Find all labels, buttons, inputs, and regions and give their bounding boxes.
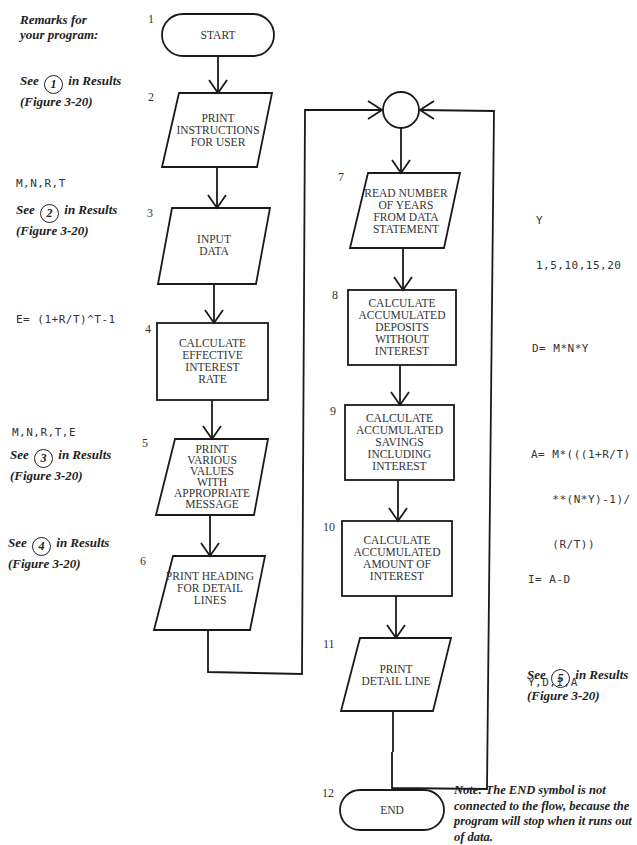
text-line: FOR USER [191,136,246,148]
text-line: FOR DETAIL [177,582,243,594]
text-line: ACCUMULATED [356,424,443,436]
step-number-5: 5 [142,436,148,451]
text-line: STATEMENT [373,223,439,235]
text-line: DATA [199,245,229,257]
text-line: INTEREST [375,345,429,357]
text-line: CALCULATE [366,412,433,424]
text-line: INTEREST [370,570,424,582]
text-line: CALCULATE [363,534,430,546]
circled-number: 3 [34,449,53,468]
step-11-text: PRINT DETAIL LINE [346,660,446,690]
circled-number: 2 [40,204,59,223]
text-line: INTEREST [185,361,239,373]
see-prefix: See [527,667,549,682]
text-line: DEPOSITS WITHOUT [348,321,456,345]
step-number-12: 12 [322,786,334,801]
see-prefix: See [16,202,38,217]
remarks-header: Remarks for your program: [20,12,98,42]
step-number-7: 7 [338,170,344,185]
see-line: See 3 in Results [10,447,111,468]
code-line: D= M*N*Y [532,341,589,356]
end-text: END [380,804,404,816]
code-line: Y [536,213,621,228]
text-line: DETAIL LINE [361,675,430,687]
left-remark-2: See 2 in Results (Figure 3-20) [16,202,117,238]
text-line: AMOUNT OF [363,558,431,570]
text-line: SAVINGS INCLUDING [345,436,454,460]
text-line: PRINT HEADING [166,570,254,582]
right-remark-5: See 5 in Results (Figure 3-20) [527,667,628,703]
text-line: RATE [198,373,227,385]
left-remark-2-code: M,N,R,T [16,176,66,191]
see-prefix: See [8,535,30,550]
text-line: CALCULATE [368,297,435,309]
circled-number: 5 [551,669,570,688]
step-number-8: 8 [332,288,338,303]
step-6-text: PRINT HEADING FOR DETAIL LINES [160,568,260,608]
right-remark-4-code: I= A-D [528,542,571,617]
see-line: See 1 in Results [20,73,121,94]
see-suffix: in Results [572,667,628,682]
step-10-text: CALCULATE ACCUMULATED AMOUNT OF INTEREST [342,529,452,587]
step-7-text: READ NUMBER OF YEARS FROM DATA STATEMENT [356,186,456,236]
step-3-text: INPUT DATA [164,230,264,260]
see-prefix: See [20,73,42,88]
step-8-text: CALCULATE ACCUMULATED DEPOSITS WITHOUT I… [348,298,456,356]
left-remark-5: See 4 in Results (Figure 3-20) [8,535,109,571]
left-remark-4-code: M,N,R,T,E [12,425,76,440]
figure-ref: (Figure 3-20) [527,688,628,703]
see-prefix: See [10,447,32,462]
see-line: See 2 in Results [16,202,117,223]
code-line: 1,5,10,15,20 [536,258,621,273]
remarks-header-line-1: Remarks for [20,12,98,27]
text-line: OF YEARS [379,199,434,211]
circled-number: 1 [44,75,63,94]
step-4-text: CALCULATE EFFECTIVE INTEREST RATE [157,330,268,392]
text-line: PRINT [201,112,234,124]
step-number-9: 9 [330,404,336,419]
code-line: **(N*Y)-1)/ [531,492,631,507]
see-suffix: in Results [61,202,117,217]
end-symbol-note: Note: The END symbol is not connected to… [454,783,637,845]
left-remark-4: See 3 in Results (Figure 3-20) [10,447,111,483]
see-line: See 5 in Results [527,667,628,688]
see-line: See 4 in Results [8,535,109,556]
start-text: START [201,29,236,41]
step-number-3: 3 [147,206,153,221]
remarks-header-line-2: your program: [20,27,98,42]
step-number-4: 4 [145,322,151,337]
text-line: EFFECTIVE [182,349,243,361]
text-line: INSTRUCTIONS [176,124,259,136]
text-line: READ NUMBER [364,187,447,199]
step-number-10: 10 [323,520,335,535]
step-number-1: 1 [148,12,154,27]
text-line: ACCUMULATED [359,309,446,321]
step-9-text: CALCULATE ACCUMULATED SAVINGS INCLUDING … [345,413,454,471]
see-suffix: in Results [53,535,109,550]
see-suffix: in Results [55,447,111,462]
code-line: A= M*(((1+R/T) [531,447,631,462]
left-remark-1: See 1 in Results (Figure 3-20) [20,73,121,109]
text-line: CALCULATE [179,337,246,349]
text-line: MESSAGE [185,499,239,510]
step-2-text: PRINT INSTRUCTIONS FOR USER [168,100,268,160]
loop-connector [383,92,419,128]
right-remark-2-code: D= M*N*Y [532,311,589,386]
text-line: INPUT [197,233,231,245]
text-line: ACCUMULATED [354,546,441,558]
start-label: START [162,14,274,56]
text-line: LINES [194,594,227,606]
see-suffix: in Results [65,73,121,88]
figure-ref: (Figure 3-20) [10,468,111,483]
left-remark-3-code: E= (1+R/T)^T-1 [16,312,116,327]
text-line: INTEREST [372,460,426,472]
step-5-text: PRINT VARIOUS VALUES WITH APPROPRIATE ME… [162,442,262,512]
figure-ref: (Figure 3-20) [16,223,117,238]
step-number-6: 6 [140,554,146,569]
circled-number: 4 [32,537,51,556]
step-number-11: 11 [323,637,335,652]
code-line: I= A-D [528,572,571,587]
right-remark-1-code: Y 1,5,10,15,20 [536,183,621,303]
text-line: PRINT [379,663,412,675]
